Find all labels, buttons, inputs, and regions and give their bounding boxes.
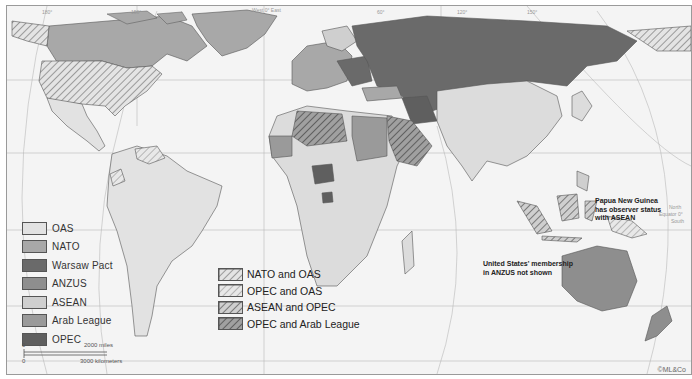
swatch-opec-oas bbox=[218, 284, 243, 297]
legend-item-arab-league: Arab League bbox=[22, 312, 113, 331]
legend-combined: NATO and OAS OPEC and OAS ASEAN and OPEC… bbox=[218, 266, 360, 332]
madagascar bbox=[402, 231, 414, 274]
label-west-east: West 0° East bbox=[252, 7, 281, 13]
swatch-warsaw-pact bbox=[22, 259, 47, 272]
label-south: South bbox=[671, 218, 684, 224]
mexico bbox=[47, 98, 105, 151]
east-siberia bbox=[627, 26, 691, 51]
mauritania bbox=[269, 136, 292, 158]
note-line: with ASEAN bbox=[595, 214, 661, 223]
swatch-nato-oas bbox=[218, 268, 243, 281]
legend-item-nato: NATO bbox=[22, 238, 113, 257]
algeria-libya bbox=[292, 111, 347, 146]
new-zealand bbox=[645, 306, 672, 341]
scale-zero-miles: 0 bbox=[22, 342, 25, 348]
swatch-asean bbox=[22, 296, 47, 309]
legend: OAS NATO Warsaw Pact ANZUS ASEAN Arab Le… bbox=[22, 219, 113, 349]
note-us-anzus: United States' membership in ANZUS not s… bbox=[483, 260, 573, 277]
note-papua-new-guinea: Papua New Guinea has observer status wit… bbox=[595, 197, 661, 223]
swatch-oas bbox=[22, 222, 47, 235]
legend-item-oas: OAS bbox=[22, 219, 113, 238]
copyright: ©ML&Co bbox=[658, 366, 687, 373]
gabon bbox=[322, 192, 333, 203]
china-india bbox=[437, 81, 562, 181]
legend-item-opec-oas: OPEC and OAS bbox=[218, 283, 360, 300]
legend-label: ANZUS bbox=[52, 278, 87, 289]
legend-label: Warsaw Pact bbox=[52, 260, 113, 271]
legend-item-asean-opec: ASEAN and OPEC bbox=[218, 299, 360, 316]
java bbox=[542, 236, 582, 242]
note-line: has observer status bbox=[595, 206, 661, 215]
label-60e: 60° bbox=[377, 9, 385, 15]
label-150e: 150° bbox=[527, 9, 537, 15]
australia bbox=[562, 246, 637, 311]
scale-bar: 0 2000 miles 0 3000 kilometers bbox=[22, 340, 132, 370]
legend-label: OPEC and Arab League bbox=[247, 318, 360, 330]
legend-item-warsaw-pact: Warsaw Pact bbox=[22, 256, 113, 275]
swatch-arab-league bbox=[22, 314, 47, 327]
legend-label: OPEC and OAS bbox=[247, 285, 322, 297]
scale-km: 3000 kilometers bbox=[80, 358, 122, 364]
legend-item-opec-arab-league: OPEC and Arab League bbox=[218, 316, 360, 333]
label-150w: 150° bbox=[131, 9, 141, 15]
japan bbox=[572, 91, 592, 121]
legend-item-anzus: ANZUS bbox=[22, 275, 113, 294]
scale-lines bbox=[22, 340, 132, 370]
legend-label: NATO and OAS bbox=[247, 268, 321, 280]
note-line: Papua New Guinea bbox=[595, 197, 661, 206]
scale-zero-km: 0 bbox=[22, 358, 25, 364]
south-america bbox=[107, 146, 222, 336]
legend-label: NATO bbox=[52, 241, 80, 252]
label-equator: Equator 0° bbox=[659, 211, 683, 217]
turkey bbox=[362, 86, 402, 101]
legend-item-nato-oas: NATO and OAS bbox=[218, 266, 360, 283]
borneo bbox=[557, 194, 579, 221]
map-figure: West 0° East 180° 150° 60° 120° 150° Nor… bbox=[0, 0, 692, 379]
swatch-opec-arab-league bbox=[218, 317, 243, 330]
legend-item-asean: ASEAN bbox=[22, 293, 113, 312]
swatch-nato bbox=[22, 240, 47, 253]
legend-label: OAS bbox=[52, 223, 74, 234]
note-line: in ANZUS not shown bbox=[483, 269, 573, 278]
scale-miles: 2000 miles bbox=[84, 342, 113, 348]
label-180: 180° bbox=[42, 9, 52, 15]
label-120e: 120° bbox=[457, 9, 467, 15]
sudan-egypt bbox=[352, 116, 387, 161]
swatch-asean-opec bbox=[218, 301, 243, 314]
note-line: United States' membership bbox=[483, 260, 573, 269]
alaska bbox=[12, 21, 49, 46]
nigeria bbox=[312, 164, 334, 184]
swatch-anzus bbox=[22, 277, 47, 290]
legend-label: ASEAN and OPEC bbox=[247, 301, 336, 313]
label-north: North bbox=[669, 204, 681, 210]
legend-label: ASEAN bbox=[52, 297, 87, 308]
philippines bbox=[577, 171, 589, 191]
legend-label: Arab League bbox=[52, 315, 111, 326]
sumatra bbox=[517, 201, 552, 234]
